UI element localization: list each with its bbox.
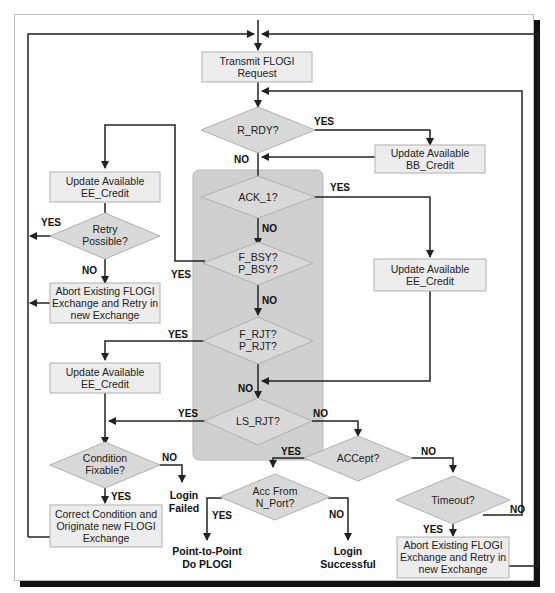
terminal-point-to-point: Point-to-Point Do PLOGI	[172, 545, 242, 570]
svg-text:R_RDY?: R_RDY?	[237, 124, 279, 136]
svg-text:new Exchange: new Exchange	[419, 563, 488, 575]
label-timeout-no: NO	[510, 504, 525, 515]
svg-text:Update Available: Update Available	[66, 366, 145, 378]
label-r-rdy-yes: YES	[314, 116, 334, 127]
svg-text:EE_Credit: EE_Credit	[406, 275, 454, 287]
svg-text:F_BSY?: F_BSY?	[238, 251, 277, 263]
svg-text:Update Available: Update Available	[391, 263, 470, 275]
process-abort-left: Abort Existing FLOGI Exchange and Retry …	[50, 283, 160, 323]
label-accept-yes: YES	[281, 446, 301, 457]
process-update-ee-credit-right: Update Available EE_Credit	[374, 259, 486, 291]
label-reject-yes: YES	[168, 329, 188, 340]
label-accept-no: NO	[421, 446, 436, 457]
label-ls-rjt-no: NO	[313, 408, 328, 419]
label-condition-no: NO	[162, 452, 177, 463]
svg-text:ACK_1?: ACK_1?	[238, 191, 277, 203]
svg-text:P_RJT?: P_RJT?	[239, 340, 277, 352]
label-timeout-yes: YES	[423, 524, 443, 535]
svg-text:ACCept?: ACCept?	[337, 452, 380, 464]
label-condition-yes: YES	[111, 491, 131, 502]
svg-text:Transmit FLOGI: Transmit FLOGI	[220, 55, 295, 67]
svg-text:EE_Credit: EE_Credit	[81, 187, 129, 199]
process-transmit: Transmit FLOGI Request	[202, 52, 312, 82]
svg-text:Acc From: Acc From	[253, 485, 298, 497]
label-ack-no: NO	[262, 223, 277, 234]
svg-text:Update Available: Update Available	[66, 175, 145, 187]
process-update-bb-credit: Update Available BB_Credit	[375, 145, 485, 173]
svg-text:Login: Login	[334, 545, 363, 557]
label-ack-yes: YES	[330, 182, 350, 193]
decision-condition: Condition Fixable?	[50, 442, 160, 488]
svg-text:BB_Credit: BB_Credit	[406, 159, 454, 171]
svg-text:Exchange: Exchange	[83, 532, 130, 544]
svg-text:Originate new FLOGI: Originate new FLOGI	[56, 520, 155, 532]
svg-text:new Exchange: new Exchange	[71, 309, 140, 321]
svg-text:EE_Credit: EE_Credit	[81, 378, 129, 390]
decision-timeout: Timeout?	[396, 476, 510, 524]
svg-text:Fixable?: Fixable?	[85, 464, 125, 476]
svg-text:Timeout?: Timeout?	[431, 494, 475, 506]
terminal-login-failed: Login Failed	[169, 489, 199, 514]
label-retry-yes: YES	[41, 217, 61, 228]
svg-text:Do PLOGI: Do PLOGI	[182, 558, 232, 570]
terminal-login-successful: Login Successful	[320, 545, 376, 570]
svg-text:Exchange and Retry in: Exchange and Retry in	[400, 551, 506, 563]
svg-text:Login: Login	[170, 489, 199, 501]
svg-text:F_RJT?: F_RJT?	[239, 328, 277, 340]
label-retry-no: NO	[82, 265, 97, 276]
svg-text:Condition: Condition	[83, 452, 128, 464]
label-r-rdy-no: NO	[234, 154, 249, 165]
label-ls-rjt-yes: YES	[178, 408, 198, 419]
svg-text:Retry: Retry	[92, 223, 118, 235]
svg-text:Abort Existing FLOGI: Abort Existing FLOGI	[55, 285, 154, 297]
process-abort-bottom-right: Abort Existing FLOGI Exchange and Retry …	[397, 537, 509, 578]
svg-text:Point-to-Point: Point-to-Point	[172, 545, 242, 557]
svg-text:Failed: Failed	[169, 502, 199, 514]
svg-text:Update Available: Update Available	[391, 147, 470, 159]
label-acc-from-no: NO	[329, 509, 344, 520]
svg-text:Request: Request	[237, 67, 276, 79]
decision-r-rdy: R_RDY?	[201, 107, 315, 153]
svg-text:Successful: Successful	[320, 558, 376, 570]
label-acc-from-yes: YES	[212, 510, 232, 521]
process-update-ee-credit-mid-left: Update Available EE_Credit	[50, 363, 160, 393]
label-reject-no: NO	[238, 383, 253, 394]
process-update-ee-credit-top-left: Update Available EE_Credit	[50, 172, 160, 202]
svg-text:N_Port?: N_Port?	[256, 497, 295, 509]
svg-text:Possible?: Possible?	[82, 235, 128, 247]
decision-retry: Retry Possible?	[50, 213, 160, 259]
svg-text:P_BSY?: P_BSY?	[238, 263, 278, 275]
label-busy-yes: YES	[171, 269, 191, 280]
flowchart: Transmit FLOGI Request Update Available …	[0, 0, 555, 593]
svg-text:Correct Condition and: Correct Condition and	[55, 508, 157, 520]
svg-text:LS_RJT?: LS_RJT?	[236, 415, 280, 427]
svg-text:Exchange and Retry in: Exchange and Retry in	[52, 297, 158, 309]
label-busy-no: NO	[262, 295, 277, 306]
process-correct-condition: Correct Condition and Originate new FLOG…	[50, 505, 162, 547]
svg-text:Abort Existing FLOGI: Abort Existing FLOGI	[403, 539, 502, 551]
decision-acc-from: Acc From N_Port?	[220, 474, 330, 520]
